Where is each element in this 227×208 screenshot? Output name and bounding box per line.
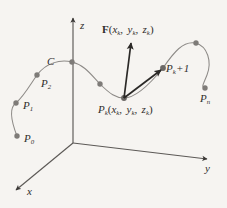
- curve-label-c: C: [47, 56, 54, 67]
- x-axis: [16, 143, 73, 190]
- point-dot-top: [193, 40, 198, 45]
- point-label-p1: P1: [23, 100, 33, 112]
- point-dot-p0: [14, 133, 19, 138]
- point-dot-mid2: [97, 81, 102, 86]
- point-dot-pn: [202, 85, 207, 90]
- point-dot-mid1: [69, 59, 74, 64]
- y-axis: [73, 143, 207, 159]
- point-label-pk-full: Pk(xk, yk, zk): [98, 104, 153, 116]
- point-label-pn: Pn: [200, 93, 210, 105]
- vector-field-figure: z y x C P0 P1 P2 Pk + 1 Pn Pk(xk, yk, zk…: [0, 0, 227, 208]
- point-label-p2: P2: [41, 78, 51, 90]
- point-label-p0: P0: [24, 133, 34, 145]
- x-axis-label: x: [27, 186, 32, 197]
- field-vector-arrow: [124, 43, 131, 98]
- vector-label-f: F(xk, yk, zk): [102, 24, 154, 36]
- point-dot-p2: [34, 72, 39, 77]
- point-dot-p1: [13, 100, 18, 105]
- point-label-pk1: Pk + 1: [166, 63, 189, 75]
- y-axis-label: y: [205, 163, 210, 174]
- z-axis-label: z: [80, 20, 84, 31]
- chord-vector-arrow: [124, 70, 161, 98]
